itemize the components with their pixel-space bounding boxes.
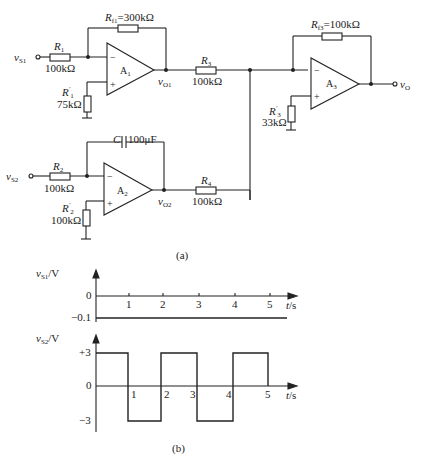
r1-value: 100kΩ [45, 63, 75, 74]
svg-text:+: + [107, 198, 113, 209]
chart1-ytick-0: 0 [86, 290, 92, 301]
vs2-terminal [29, 174, 33, 178]
rf1-label: Rf1=300kΩ [105, 12, 154, 27]
a2-label: A2 [117, 185, 128, 200]
chart2-xtick-2: 2 [164, 389, 170, 400]
chart2-ytick-neg: −3 [79, 415, 91, 426]
chart1-xtick-2: 2 [160, 299, 166, 310]
r3-value: 100kΩ [192, 76, 222, 87]
r2-value: 100kΩ [44, 183, 74, 194]
vs2-waveform [96, 353, 268, 421]
vo2-label: vO2 [158, 196, 171, 211]
chart1-xtick-5: 5 [267, 299, 273, 310]
chart2-xtick-1: 1 [131, 389, 137, 400]
chart1-xtick-3: 3 [196, 299, 202, 310]
chart1-xtick-1: 1 [126, 299, 132, 310]
svg-text:+: + [110, 79, 116, 90]
r3-label: R3 [201, 55, 211, 70]
svg-text:−: − [314, 65, 320, 76]
svg-text:−: − [110, 52, 116, 63]
a1-label: A1 [120, 65, 131, 80]
r1p-resistor [84, 96, 91, 112]
chart2-ylabel: vS2/V [36, 333, 59, 348]
r1-label: R1 [54, 41, 64, 56]
vo-label: vO [400, 79, 410, 94]
a3-label: A3 [326, 78, 337, 93]
chart-vs1 [93, 270, 297, 322]
r2p-value: 100kΩ [51, 215, 81, 226]
r4-label: R4 [201, 175, 211, 190]
vo-terminal [393, 82, 397, 86]
r1p-value: 75kΩ [57, 99, 82, 110]
caption-b: (b) [172, 443, 185, 454]
chart2-xtick-5: 5 [265, 389, 271, 400]
c-value: 100μF [128, 134, 157, 145]
c-label: C [113, 134, 120, 145]
rf3-resistor [322, 33, 342, 40]
r2-label: R2 [53, 161, 63, 176]
chart2-xtick-4: 4 [226, 389, 232, 400]
chart-vs2 [93, 335, 297, 432]
svg-text:+: + [314, 91, 320, 102]
chart1-xlabel: t/s [286, 300, 296, 311]
chart2-ytick-0: 0 [86, 380, 92, 391]
chart1-xtick-4: 4 [232, 299, 238, 310]
r4-value: 100kΩ [192, 196, 222, 207]
rf3-label: Rf3=100kΩ [311, 19, 360, 34]
vs2-label: vS2 [6, 171, 18, 186]
r2p-resistor [83, 210, 90, 226]
r3p-value: 33kΩ [262, 117, 287, 128]
vo1-label: vO1 [158, 76, 171, 91]
chart2-xtick-3: 3 [190, 389, 196, 400]
vs1-label: vS1 [14, 52, 26, 67]
svg-text:−: − [107, 171, 113, 182]
chart2-ytick-pos: +3 [79, 347, 91, 358]
chart2-xlabel: t/s [286, 390, 296, 401]
r3p-resistor [288, 106, 295, 122]
chart1-ylabel: vS1/V [36, 268, 59, 283]
chart1-ytick-neg: −0.1 [71, 312, 91, 323]
caption-a: (a) [176, 250, 188, 261]
vs1-terminal [36, 55, 40, 59]
